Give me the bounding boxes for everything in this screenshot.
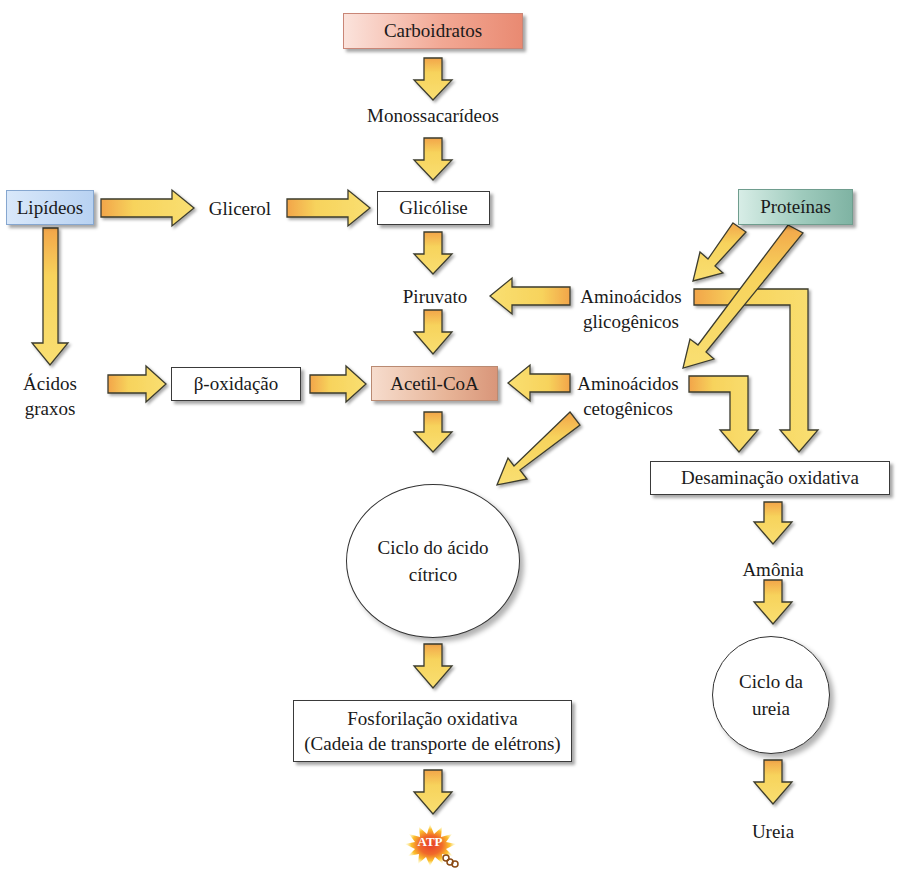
atp-icon: ATP bbox=[404, 826, 456, 870]
atp-label: ATP bbox=[404, 834, 456, 850]
node-label-line1: Fosforilação oxidativa bbox=[347, 706, 517, 731]
arrow-beta-acetil bbox=[310, 366, 366, 402]
node-label-line2: cítrico bbox=[378, 561, 489, 588]
arrow-amonia-ureia bbox=[754, 580, 792, 624]
node-acidos-graxos: Ácidos graxos bbox=[10, 371, 90, 421]
node-label-line1: Ácidos bbox=[10, 371, 90, 396]
node-label: β-oxidação bbox=[194, 373, 279, 395]
node-label: Proteínas bbox=[760, 196, 831, 218]
arrow-cicloureia-ureia bbox=[754, 760, 792, 804]
arrow-fosfo-atp bbox=[414, 770, 452, 814]
node-monossacarideos: Monossacarídeos bbox=[343, 103, 523, 128]
node-acetil-coa: Acetil-CoA bbox=[371, 366, 498, 401]
arrow-aaglic-piruvato bbox=[490, 278, 570, 314]
node-label: Lipídeos bbox=[17, 197, 84, 219]
node-beta-oxidacao: β-oxidação bbox=[171, 367, 301, 401]
node-ciclo-acido-citrico: Ciclo do ácido cítrico bbox=[346, 484, 520, 638]
node-fosforilacao-oxidativa: Fosforilação oxidativa (Cadeia de transp… bbox=[293, 700, 572, 762]
node-label: Acetil-CoA bbox=[390, 373, 479, 395]
arrow-lip-glicerol bbox=[101, 190, 194, 226]
node-ureia: Ureia bbox=[723, 819, 823, 844]
arrow-aaceto-ciclo bbox=[497, 412, 580, 485]
metabolism-diagram: Carboidratos Monossacarídeos Lipídeos Gl… bbox=[0, 0, 900, 881]
node-label: Glicólise bbox=[399, 197, 468, 219]
arrow-aaceto-acetil bbox=[508, 365, 570, 401]
arrow-aaglic-desam bbox=[694, 289, 818, 452]
arrow-acidos-beta bbox=[108, 366, 166, 402]
arrow-piruvato-acetil bbox=[414, 310, 452, 354]
node-label-line2: glicogênicos bbox=[570, 309, 692, 334]
node-amonia: Amônia bbox=[723, 557, 823, 582]
node-desaminacao-oxidativa: Desaminação oxidativa bbox=[650, 461, 890, 495]
node-label: Desaminação oxidativa bbox=[681, 467, 859, 489]
node-label-line2: graxos bbox=[10, 396, 90, 421]
node-label-line1: Aminoácidos bbox=[570, 371, 686, 396]
arrow-desam-amonia bbox=[754, 502, 792, 544]
arrow-aaceto-desam bbox=[689, 376, 758, 452]
node-label-line1: Aminoácidos bbox=[570, 284, 692, 309]
node-label-line1: Ciclo da bbox=[739, 668, 803, 695]
node-label-line2: cetogênicos bbox=[570, 396, 686, 421]
node-glicerol: Glicerol bbox=[200, 196, 280, 221]
arrow-ciclo-fosfo bbox=[414, 644, 452, 688]
arrow-acetil-ciclo bbox=[414, 412, 452, 452]
arrow-mono-glic bbox=[414, 138, 452, 180]
node-ciclo-ureia: Ciclo da ureia bbox=[712, 636, 830, 754]
arrow-carb-mono bbox=[414, 58, 452, 100]
arrow-lip-acidos bbox=[32, 228, 68, 365]
node-glicolise: Glicólise bbox=[377, 191, 490, 225]
node-label: Carboidratos bbox=[384, 20, 482, 42]
node-proteinas: Proteínas bbox=[738, 189, 853, 225]
node-lipideos: Lipídeos bbox=[6, 190, 94, 225]
arrow-glicerol-glic bbox=[287, 190, 370, 226]
arrow-prot-aaglic bbox=[693, 223, 746, 281]
node-label-line2: ureia bbox=[739, 695, 803, 722]
arrow-glic-piruvato bbox=[414, 232, 452, 274]
node-aminoacidos-cetogenicos: Aminoácidos cetogênicos bbox=[570, 371, 686, 421]
node-label-line2: (Cadeia de transporte de elétrons) bbox=[304, 731, 560, 756]
node-carboidratos: Carboidratos bbox=[343, 13, 523, 49]
node-piruvato: Piruvato bbox=[390, 284, 480, 309]
node-aminoacidos-glicogenicos: Aminoácidos glicogênicos bbox=[570, 284, 692, 334]
node-label-line1: Ciclo do ácido bbox=[378, 534, 489, 561]
